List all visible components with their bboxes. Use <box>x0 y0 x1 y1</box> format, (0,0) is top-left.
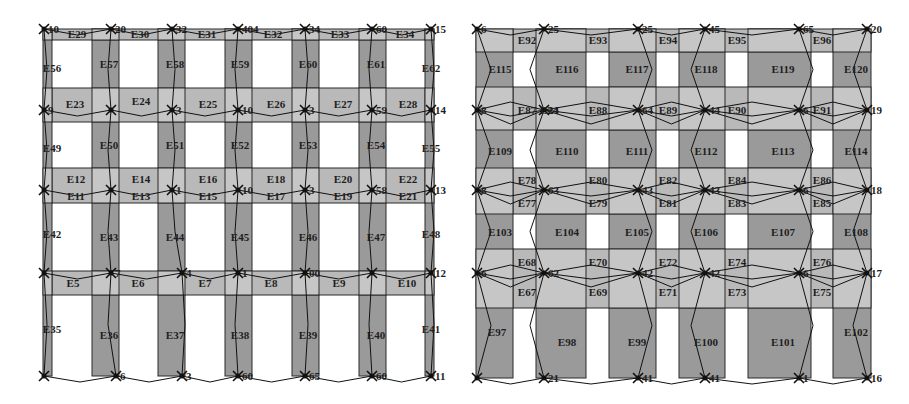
element-label: E56 <box>43 62 62 74</box>
node-dot-icon <box>797 376 802 381</box>
node-label: 34 <box>309 23 321 35</box>
element-label: E116 <box>555 63 579 75</box>
node-label: 20 <box>871 23 883 35</box>
node-dot-icon <box>703 108 708 113</box>
element-label: E7 <box>199 277 212 289</box>
element-label: E106 <box>694 226 718 238</box>
node-label: 6 <box>803 184 809 196</box>
element-label: E82 <box>659 174 678 186</box>
node-dot-icon <box>303 27 308 32</box>
node-marker: 10 <box>39 23 60 35</box>
element-label: E87 <box>518 104 537 116</box>
element-label: E24 <box>540 104 559 116</box>
element-label: E28 <box>399 98 418 110</box>
element-label: E61 <box>367 58 385 70</box>
node-dot-icon <box>236 271 241 276</box>
frame-diagrams: 1020324043460159310359141103581374100126… <box>0 0 909 404</box>
node-label: 1 <box>176 184 182 196</box>
element-label: E117 <box>625 63 649 75</box>
element-label: E5 <box>67 277 80 289</box>
node-dot-icon <box>865 188 870 193</box>
element-label: E32 <box>264 28 283 40</box>
element-label: E75 <box>813 286 832 298</box>
element-label: E103 <box>488 226 512 238</box>
element-label: E99 <box>628 336 647 348</box>
element-label: E45 <box>231 231 250 243</box>
element-label: E16 <box>199 173 218 185</box>
node-label: 3 <box>309 104 315 116</box>
node-dot-icon <box>370 108 375 113</box>
node-label: 7 <box>115 267 121 279</box>
element-label: E22 <box>399 173 418 185</box>
element-label: E21 <box>399 190 417 202</box>
node-dot-icon <box>236 27 241 32</box>
node-dot-icon <box>542 27 547 32</box>
element-label: E25 <box>199 98 218 110</box>
element-label: E14 <box>132 173 151 185</box>
element-label: E73 <box>728 286 747 298</box>
node-label: 3 <box>186 370 192 382</box>
node-label: 1 <box>803 372 809 384</box>
node-label: 41 <box>642 372 653 384</box>
element-label: E31 <box>198 28 216 40</box>
node-label: 6 <box>481 267 487 279</box>
node-label: 10 <box>242 184 254 196</box>
node-label: 6 <box>120 370 126 382</box>
element-label: E107 <box>771 226 795 238</box>
element-label: E111 <box>626 145 649 157</box>
node-dot-icon <box>636 271 641 276</box>
element-label: E69 <box>589 286 608 298</box>
element-label: E58 <box>166 58 185 70</box>
node-label: 63 <box>548 184 560 196</box>
node-label: 42 <box>709 267 721 279</box>
element-label: E50 <box>100 139 119 151</box>
element-label: E27 <box>334 98 353 110</box>
element-label: E108 <box>844 226 868 238</box>
element-label: E35 <box>43 323 62 335</box>
element-label: E95 <box>728 34 747 46</box>
element-label: E76 <box>813 256 832 268</box>
element-label: E9 <box>333 277 346 289</box>
node-label: 60 <box>376 23 388 35</box>
element-label: E24 <box>132 95 151 107</box>
element-label: E74 <box>728 256 747 268</box>
node-label: 19 <box>871 104 883 116</box>
element-label: E23 <box>66 98 85 110</box>
element-label: E62 <box>422 62 441 74</box>
node-label: 64 <box>642 104 654 116</box>
element-label: E40 <box>367 329 386 341</box>
element-label: E18 <box>267 173 286 185</box>
element-label: E115 <box>488 63 512 75</box>
beam-axis-line <box>116 376 182 382</box>
element-label: E97 <box>488 326 507 338</box>
element-label: E96 <box>813 34 832 46</box>
node-label: 9 <box>48 104 54 116</box>
node-dot-icon <box>109 188 114 193</box>
node-dot-icon <box>114 374 119 379</box>
node-dot-icon <box>370 374 375 379</box>
node-label: 1 <box>242 267 248 279</box>
element-label: E98 <box>558 336 577 348</box>
node-label: 21 <box>548 372 559 384</box>
node-label: 6 <box>803 267 809 279</box>
element-label: E41 <box>422 323 440 335</box>
element-label: E120 <box>844 63 868 75</box>
node-label: 10 <box>48 23 60 35</box>
element-label: E110 <box>555 145 579 157</box>
node-dot-icon <box>475 188 480 193</box>
node-dot-icon <box>429 188 434 193</box>
node-label: 404 <box>242 23 259 35</box>
element-label: E60 <box>299 58 318 70</box>
element-label: E30 <box>131 28 150 40</box>
element-label: E84 <box>728 174 747 186</box>
node-label: 43 <box>709 184 721 196</box>
node-dot-icon <box>429 271 434 276</box>
node-dot-icon <box>865 376 870 381</box>
node-dot-icon <box>170 108 175 113</box>
node-dot-icon <box>636 27 641 32</box>
joint-panel <box>536 29 586 52</box>
node-dot-icon <box>542 376 547 381</box>
right-frame-model: 6252545652082464446198634343618662424261… <box>472 23 883 384</box>
node-dot-icon <box>475 271 480 276</box>
element-label: E47 <box>367 231 386 243</box>
